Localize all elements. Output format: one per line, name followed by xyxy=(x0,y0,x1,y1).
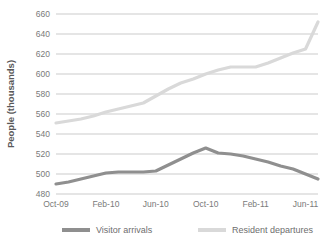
x-tick-label: Feb-10 xyxy=(92,199,119,209)
y-tick-label: 480 xyxy=(36,189,50,199)
y-tick-label: 640 xyxy=(36,29,50,39)
y-tick-label: 540 xyxy=(36,129,50,139)
y-tick-label: 660 xyxy=(36,9,50,19)
x-tick-label: Jun-11 xyxy=(293,199,319,209)
y-tick-label: 500 xyxy=(36,169,50,179)
legend-label-resident-departures: Resident departures xyxy=(232,225,314,235)
y-axis-title: People (thousands) xyxy=(5,60,16,148)
x-tick-label: Oct-09 xyxy=(43,199,69,209)
y-tick-label: 560 xyxy=(36,109,50,119)
x-tick-label: Oct-10 xyxy=(193,199,219,209)
x-tick-label: Feb-11 xyxy=(242,199,269,209)
chart-canvas: 480500520540560580600620640660 Oct-09Feb… xyxy=(0,0,326,250)
line-chart: 480500520540560580600620640660 Oct-09Feb… xyxy=(0,0,326,250)
y-tick-label: 620 xyxy=(36,49,50,59)
y-tick-label: 520 xyxy=(36,149,50,159)
x-tick-label: Jun-10 xyxy=(143,199,169,209)
y-tick-label: 580 xyxy=(36,89,50,99)
y-tick-label: 600 xyxy=(36,69,50,79)
legend-label-visitor-arrivals: Visitor arrivals xyxy=(96,225,153,235)
